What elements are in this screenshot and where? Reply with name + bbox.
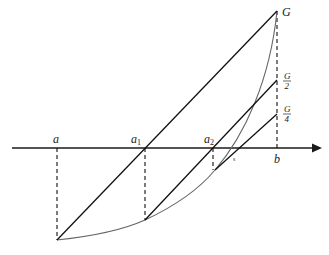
axis-arrow-icon <box>312 144 322 153</box>
label-a2: a2 <box>204 132 214 147</box>
svg-text:4: 4 <box>285 114 290 124</box>
label-G: G <box>282 5 291 19</box>
diagram-canvas: a a1 a2 b G G 2 G 4 s <box>0 0 329 255</box>
svg-text:G: G <box>284 71 291 81</box>
svg-text:G: G <box>284 104 291 114</box>
svg-text:2: 2 <box>285 81 290 91</box>
line-a1-to-G2 <box>145 80 277 220</box>
label-s: s <box>233 156 236 162</box>
label-G-quarter: G 4 <box>283 104 291 124</box>
label-b: b <box>274 152 280 166</box>
label-G-half: G 2 <box>283 71 291 91</box>
label-a: a <box>53 132 59 146</box>
label-a1: a1 <box>131 132 141 147</box>
